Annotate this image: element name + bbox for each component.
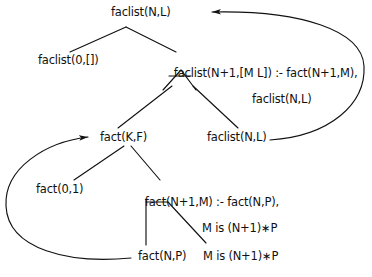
edge-factkf-to-rule [131, 146, 160, 180]
diagram-canvas: faclist(N,L) faclist(0,[]) faclist(N+1,[… [0, 0, 372, 277]
node-faclist-base: faclist(0,[]) [38, 54, 99, 67]
node-fact-rule-line1: fact(N+1,M) :- fact(N,P), [145, 195, 279, 209]
node-fact-base: fact(0,1) [36, 183, 83, 196]
node-fact-rule-line2: M is (N+1)∗P [202, 222, 279, 235]
recursion-arc-fact [6, 137, 131, 259]
node-faclist-rule-line2: faclist(N,L) [252, 93, 358, 106]
node-faclist-rule-line1: faclist(N+1,[M L]) :- fact(N+1,M), [174, 66, 358, 80]
edge-root-to-rule [126, 27, 176, 52]
node-fact-np-leaf: fact(N,P) [138, 250, 186, 263]
node-faclist-nl-mid: faclist(N,L) [207, 131, 267, 144]
node-fact-kf: fact(K,F) [100, 131, 147, 144]
node-root: faclist(N,L) [111, 6, 171, 19]
edge-root-to-base [70, 27, 126, 52]
node-faclist-rule: faclist(N+1,[M L]) :- fact(N+1,M), facli… [160, 54, 358, 132]
edge-factkf-to-base [74, 146, 124, 180]
node-m-is-leaf: M is (N+1)∗P [203, 250, 278, 263]
